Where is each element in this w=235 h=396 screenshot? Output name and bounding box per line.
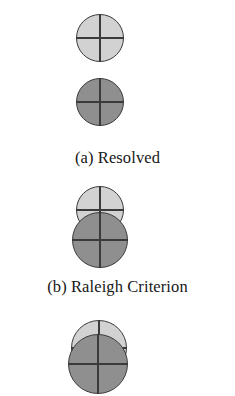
- crosshair-horizontal-icon: [68, 363, 128, 365]
- dark-disc-a: [76, 78, 124, 126]
- dark-disc-b: [72, 212, 128, 268]
- dark-disc-c: [68, 334, 128, 394]
- crosshair-horizontal-icon: [76, 209, 124, 211]
- caption-raleigh-criterion: (b) Raleigh Criterion: [0, 277, 235, 297]
- crosshair-horizontal-icon: [76, 101, 124, 103]
- crosshair-horizontal-icon: [76, 37, 124, 39]
- panel-resolved: [0, 0, 235, 140]
- caption-resolved: (a) Resolved: [0, 148, 235, 168]
- figure-root: (a) Resolved (b) Raleigh Criterion: [0, 0, 235, 396]
- panel-unresolved: [0, 320, 235, 396]
- light-disc-a: [76, 14, 124, 62]
- panel-raleigh-criterion: [0, 186, 235, 266]
- crosshair-horizontal-icon: [72, 239, 128, 241]
